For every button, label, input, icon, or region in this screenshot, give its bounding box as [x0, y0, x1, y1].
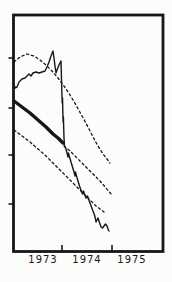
- forecast-chart-figure: 1973 1974 1975: [0, 0, 172, 282]
- chart-canvas: [0, 0, 172, 282]
- x-tick-label-1974: 1974: [72, 254, 101, 265]
- series-upper-confidence-band: [14, 54, 110, 163]
- series-trend-line: [14, 101, 63, 143]
- plot-frame: [14, 15, 164, 252]
- x-tick-label-1973: 1973: [28, 254, 57, 265]
- series-forecast-line: [64, 146, 112, 195]
- x-tick-label-1975: 1975: [117, 254, 146, 265]
